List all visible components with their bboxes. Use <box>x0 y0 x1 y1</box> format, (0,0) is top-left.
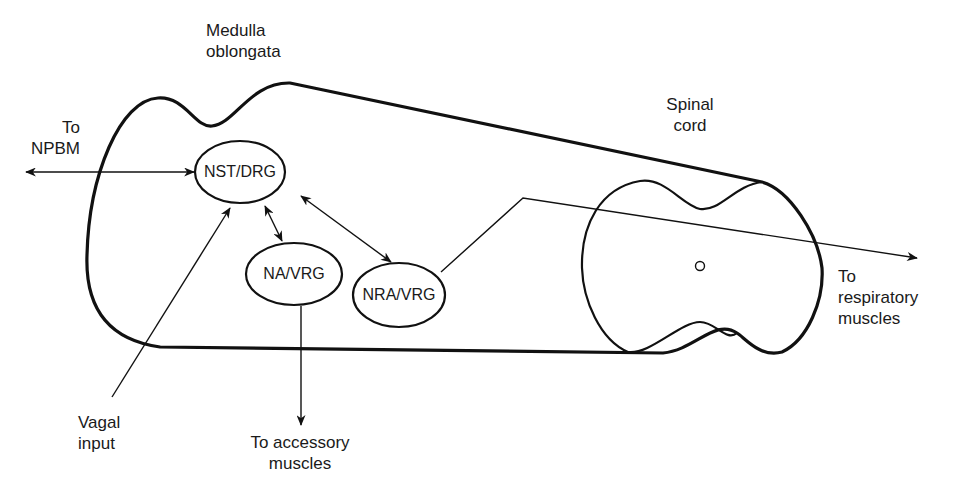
respiratory-label-line2: respiratory <box>838 287 918 308</box>
vagal-label-line2: input <box>78 433 120 454</box>
node-label-nst-drg: NST/DRG <box>195 162 285 182</box>
respiratory-output-arrow <box>441 198 917 272</box>
to-respiratory-muscles-label: To respiratory muscles <box>838 266 918 329</box>
central-canal <box>696 262 705 271</box>
nst-na-arrow <box>265 206 282 241</box>
vagal-input-label: Vagal input <box>78 412 120 454</box>
spinal-cord-cross-section <box>582 181 762 353</box>
npbm-label-line2: NPBM <box>20 138 80 159</box>
to-npbm-label: To NPBM <box>20 117 80 159</box>
spinal-cord-label-line2: cord <box>660 115 720 136</box>
node-label-na-vrg: NA/VRG <box>246 264 342 284</box>
vagal-label-line1: Vagal <box>78 412 120 433</box>
respiratory-label-line3: muscles <box>838 308 918 329</box>
node-label-nra-vrg: NRA/VRG <box>353 285 445 305</box>
brainstem-respiratory-diagram <box>0 0 953 492</box>
figure-caption-cropped <box>8 482 948 492</box>
spinal-cord-label-line1: Spinal <box>660 94 720 115</box>
accessory-label-line2: muscles <box>240 453 360 474</box>
respiratory-label-line1: To <box>838 266 918 287</box>
spinal-cord-label: Spinal cord <box>660 94 720 136</box>
medulla-oblongata-label: Medulla oblongata <box>206 20 281 62</box>
npbm-label-line1: To <box>20 117 80 138</box>
to-accessory-muscles-label: To accessory muscles <box>240 432 360 474</box>
medulla-label-line1: Medulla <box>206 20 281 41</box>
medulla-label-line2: oblongata <box>206 41 281 62</box>
accessory-label-line1: To accessory <box>240 432 360 453</box>
vagal-input-arrow <box>112 208 230 397</box>
